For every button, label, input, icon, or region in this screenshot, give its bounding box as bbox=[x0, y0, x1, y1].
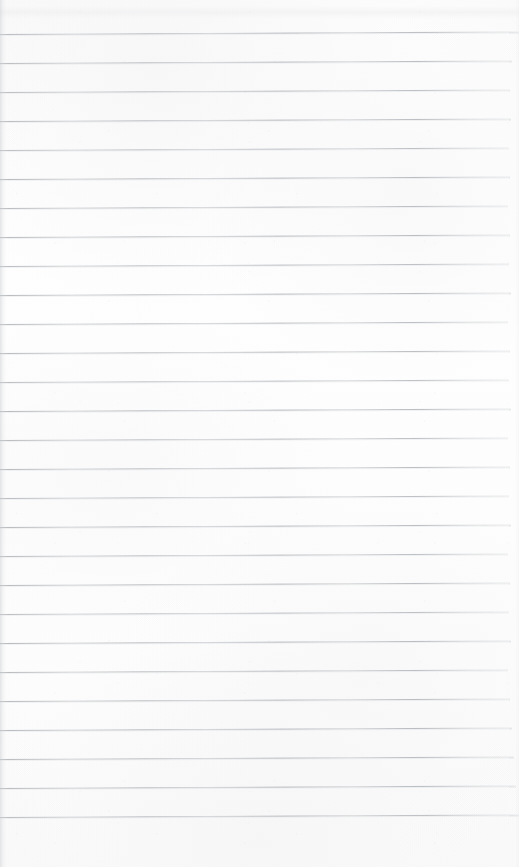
ruled-line bbox=[0, 727, 512, 731]
ruled-line bbox=[0, 670, 508, 673]
ruled-line bbox=[0, 467, 510, 470]
ruled-line bbox=[0, 438, 508, 441]
ruled-line bbox=[0, 90, 510, 93]
ruled-line bbox=[0, 756, 514, 760]
ruled-line bbox=[0, 177, 510, 180]
ruled-line bbox=[0, 641, 511, 644]
ruled-line bbox=[0, 525, 511, 528]
ruled-line bbox=[0, 380, 509, 383]
ruled-line bbox=[0, 148, 509, 151]
ruled-line bbox=[0, 206, 508, 209]
ruled-line bbox=[0, 554, 508, 557]
ruled-line bbox=[0, 235, 510, 238]
ruled-line bbox=[0, 60, 512, 64]
ruled-line bbox=[0, 496, 509, 499]
ruled-line bbox=[0, 814, 519, 818]
ruled-lines-group bbox=[0, 0, 519, 867]
ruled-line bbox=[0, 264, 509, 267]
ruled-line bbox=[0, 699, 510, 702]
ruled-line bbox=[0, 322, 508, 325]
ruled-line bbox=[0, 351, 510, 354]
ruled-line bbox=[0, 119, 511, 122]
ruled-line bbox=[0, 612, 509, 615]
ruled-line bbox=[0, 409, 511, 412]
ruled-line bbox=[0, 583, 510, 586]
ruled-line bbox=[0, 785, 516, 789]
scanned-page bbox=[0, 0, 519, 867]
ruled-line bbox=[0, 31, 519, 35]
ruled-line bbox=[0, 293, 511, 296]
